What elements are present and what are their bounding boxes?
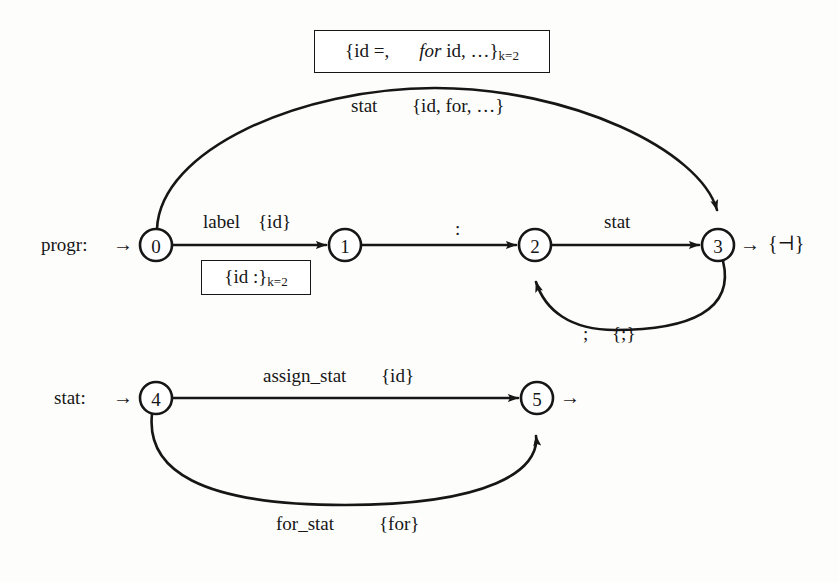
state-node-5-label: 5 (532, 389, 542, 410)
edge-4-to-5-arc-follow-set: {for} (379, 514, 419, 533)
state-node-3-label: 3 (713, 236, 723, 257)
edge-0-to-3-follow-set: {id, for, …} (412, 96, 504, 115)
transition-network-diagram: 0 1 2 3 4 5 {id =,for id, …}k=2 stat {id… (0, 0, 839, 582)
edge-3-to-2-symbol: ; (583, 324, 588, 343)
stat-entry-arrow-icon: → (113, 387, 133, 407)
progr-entry-arrow-icon: → (113, 234, 133, 254)
edge-1-to-2-symbol: : (455, 219, 460, 238)
graph-canvas: 0 1 2 3 4 5 (0, 0, 839, 582)
lookahead-box-stat-k2-text: {id =,for id, …}k=2 (345, 41, 519, 62)
graph-name-stat: stat: (54, 388, 86, 407)
edge-0-to-1-symbol: label (203, 212, 240, 231)
edge-4-to-5-symbol: assign_stat (263, 366, 346, 385)
edge-4-to-5-arc-symbol: for_stat (276, 514, 334, 533)
edge-0-to-3-symbol: stat (351, 96, 377, 115)
state-node-2-label: 2 (530, 236, 540, 257)
progr-exit-set: {⊣} (768, 233, 804, 253)
progr-exit-arrow-icon: → (740, 234, 760, 254)
state-node-4-label: 4 (151, 389, 161, 410)
lookahead-box-label-k2-text: {id :}k=2 (224, 267, 287, 288)
edge-4-to-5-arc-under (152, 414, 537, 505)
edge-2-to-3-symbol: stat (604, 212, 630, 231)
edge-3-to-2-arc-under (536, 261, 725, 330)
stat-exit-arrow-icon: → (560, 387, 580, 407)
state-node-1-label: 1 (340, 236, 350, 257)
edge-3-to-2-follow-set: {;} (612, 324, 636, 343)
lookahead-box-stat-k2: {id =,for id, …}k=2 (314, 30, 550, 73)
state-node-0-label: 0 (151, 236, 161, 257)
edge-4-to-5-follow-set: {id} (381, 366, 414, 385)
graph-name-progr: progr: (41, 235, 87, 254)
lookahead-box-label-k2: {id :}k=2 (201, 260, 311, 295)
edge-0-to-1-follow-set: {id} (258, 212, 291, 231)
